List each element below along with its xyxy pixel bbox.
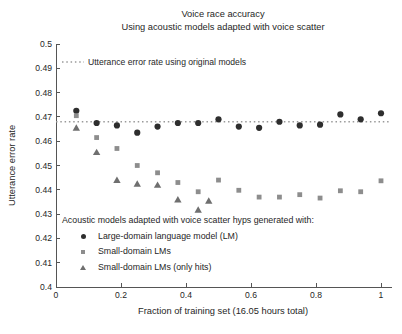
data-point-circle	[114, 122, 120, 128]
x-tick-label: 0.6	[245, 290, 257, 300]
data-point-square	[175, 180, 180, 185]
data-point-square	[115, 146, 120, 151]
y-tick-label: 0.48	[35, 88, 52, 98]
y-tick-label: 0.47	[35, 112, 52, 122]
x-tick-label: 0	[54, 290, 59, 300]
data-point-circle	[236, 124, 242, 130]
data-point-circle	[73, 108, 79, 114]
data-point-circle	[358, 116, 364, 122]
data-point-square	[318, 196, 323, 201]
x-tick-label: 0.4	[180, 290, 192, 300]
x-tick-label: 1	[379, 290, 384, 300]
data-point-circle	[276, 119, 282, 125]
y-axis-label: Utterance error rate	[7, 86, 20, 246]
chart-canvas: 0.40.410.420.430.440.450.460.470.480.490…	[0, 0, 402, 334]
data-point-circle	[378, 110, 384, 116]
circle-marker-icon	[81, 234, 86, 239]
y-tick-label: 0.5	[40, 39, 52, 49]
legend-item-small-domain-lms-only-hits: Small-domain LMs (only hits)	[75, 262, 392, 271]
x-tick-label: 0.8	[310, 290, 322, 300]
y-tick-label: 0.42	[35, 233, 52, 243]
data-point-square	[277, 195, 282, 200]
legend-item-label: Small-domain LMs	[98, 246, 171, 256]
plot-legend: Acoustic models adapted with voice scatt…	[62, 215, 392, 278]
data-point-circle	[134, 130, 140, 136]
data-point-square	[196, 189, 201, 194]
data-point-square	[94, 135, 99, 140]
data-point-square	[358, 189, 363, 194]
data-point-circle	[337, 111, 343, 117]
data-point-circle	[317, 122, 323, 128]
data-point-triangle	[73, 124, 80, 130]
legend-item-small-domain-lms: Small-domain LMs	[75, 247, 392, 256]
data-point-square	[379, 178, 384, 183]
data-point-circle	[94, 120, 100, 126]
data-point-triangle	[205, 197, 212, 203]
chart-title: Voice race accuracy	[56, 8, 390, 21]
x-axis-label: Fraction of training set (16.05 hours to…	[56, 306, 390, 316]
data-point-square	[216, 178, 221, 183]
data-point-square	[236, 188, 241, 193]
data-point-circle	[154, 124, 160, 130]
data-point-square	[297, 192, 302, 197]
data-point-circle	[175, 120, 181, 126]
data-point-square	[257, 195, 262, 200]
y-tick-label: 0.43	[35, 209, 52, 219]
plot-legend-heading: Acoustic models adapted with voice scatt…	[62, 215, 392, 225]
y-tick-label: 0.44	[35, 185, 52, 195]
y-tick-label: 0.49	[35, 63, 52, 73]
data-point-square	[338, 188, 343, 193]
x-tick-label: 0.2	[115, 290, 127, 300]
legend-item-large-domain-lm: Large-domain language model (LM)	[75, 231, 392, 240]
data-point-triangle	[194, 206, 201, 212]
triangle-marker-icon	[80, 265, 86, 270]
data-point-triangle	[113, 177, 120, 183]
data-point-triangle	[93, 149, 100, 155]
data-point-circle	[256, 125, 262, 131]
square-marker-icon	[81, 250, 86, 255]
data-point-triangle	[134, 180, 141, 186]
y-tick-label: 0.46	[35, 136, 52, 146]
legend-item-label: Large-domain language model (LM)	[98, 231, 238, 241]
data-point-circle	[195, 120, 201, 126]
data-point-circle	[297, 122, 303, 128]
y-tick-label: 0.4	[40, 282, 52, 292]
data-point-triangle	[174, 196, 181, 202]
data-point-square	[135, 163, 140, 168]
legend-item-label: Small-domain LMs (only hits)	[98, 262, 211, 272]
data-point-circle	[215, 116, 221, 122]
data-point-triangle	[154, 181, 161, 187]
data-point-square	[74, 113, 79, 118]
chart-title-block: Voice race accuracy Using acoustic model…	[56, 8, 390, 34]
y-tick-label: 0.45	[35, 161, 52, 171]
data-point-square	[155, 170, 160, 175]
y-tick-label: 0.41	[35, 258, 52, 268]
reference-line-legend-label: Utterance error rate using original mode…	[88, 57, 246, 67]
chart-subtitle: Using acoustic models adapted with voice…	[56, 21, 390, 34]
figure-window: 0.40.410.420.430.440.450.460.470.480.490…	[0, 0, 402, 334]
